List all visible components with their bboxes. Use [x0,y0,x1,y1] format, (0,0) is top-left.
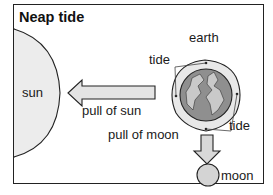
earth-label: earth [189,31,219,44]
tide-label-bottom: tide [229,119,250,132]
moon-shape [197,164,219,186]
pull-of-moon-arrow [194,135,220,164]
pull-of-sun-label: pull of sun [82,104,141,117]
tide-label-top: tide [149,53,170,66]
sun-label: sun [22,86,43,99]
pull-of-moon-label: pull of moon [108,128,179,141]
diagram-title: Neap tide [19,9,84,25]
moon-label: moon [221,169,254,182]
